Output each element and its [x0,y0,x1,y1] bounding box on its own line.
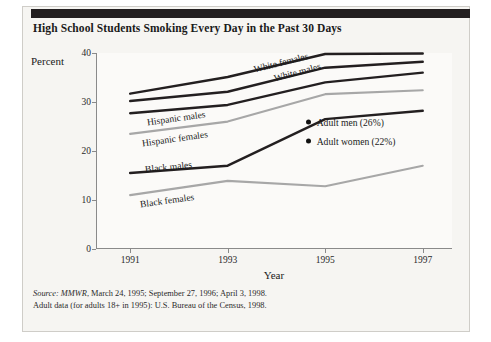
source-note-line-1: Source: MMWR, March 24, 1995; September … [33,288,453,300]
y-tick-label: 0 [86,244,91,254]
x-tick-mark [228,249,229,253]
y-tick-label: 10 [82,195,92,205]
annotation-label: Adult men (26%) [317,116,384,127]
source-notes: Source: MMWR, March 24, 1995; September … [33,288,453,311]
y-tick-label: 20 [82,146,92,156]
x-tick-label: 1993 [218,255,237,265]
bullet-icon [306,139,311,144]
x-tick-mark [423,249,424,253]
top-rule-bar [31,9,470,18]
bullet-icon [306,119,311,124]
annotation-label: Adult women (22%) [317,136,396,147]
annotation-adult-women: Adult women (22%) [306,136,396,147]
y-tick-label: 30 [82,97,92,107]
x-tick-label: 1997 [413,255,432,265]
source-label: Source: [33,289,59,298]
source-dates: , March 24, 1995; September 27, 1996; Ap… [87,289,267,298]
y-axis-label: Percent [31,55,64,67]
y-tick-label: 40 [82,48,92,58]
figure-root: High School Students Smoking Every Day i… [0,0,491,342]
chart-title: High School Students Smoking Every Day i… [33,22,453,34]
annotation-adult-men: Adult men (26%) [306,116,384,127]
y-tick-mark [92,249,96,250]
source-journal: MMWR [61,289,87,298]
x-axis-label: Year [96,269,452,281]
x-tick-mark [130,249,131,253]
series-lines [96,53,452,249]
x-tick-label: 1995 [316,255,335,265]
x-tick-mark [325,249,326,253]
x-tick-label: 1991 [121,255,140,265]
plot-area: 010203040 1991199319951997 White females… [96,53,452,249]
source-note-line-2: Adult data (for adults 18+ in 1995): U.S… [33,300,453,312]
